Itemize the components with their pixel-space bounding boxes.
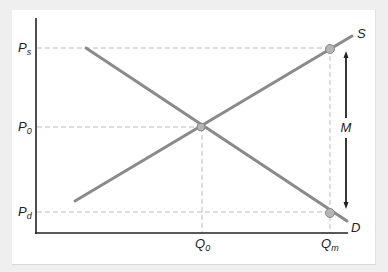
p0-label: P0 bbox=[18, 119, 32, 136]
demand-point-qm bbox=[326, 209, 335, 218]
qm-label: Qm bbox=[321, 236, 339, 253]
demand-curve bbox=[86, 48, 347, 221]
axes bbox=[35, 18, 348, 234]
margin-label: M bbox=[341, 120, 352, 135]
supply-label: S bbox=[357, 26, 366, 41]
supply-demand-chart: M S D Ps P0 Pd Q0 Qm bbox=[0, 0, 388, 272]
q0-label: Q0 bbox=[195, 236, 210, 253]
equilibrium-point bbox=[197, 123, 205, 131]
pd-label: Pd bbox=[18, 204, 33, 221]
supply-point-qm bbox=[326, 45, 335, 54]
ps-label: Ps bbox=[18, 40, 32, 57]
demand-label: D bbox=[351, 220, 360, 235]
supply-curve bbox=[75, 36, 352, 201]
